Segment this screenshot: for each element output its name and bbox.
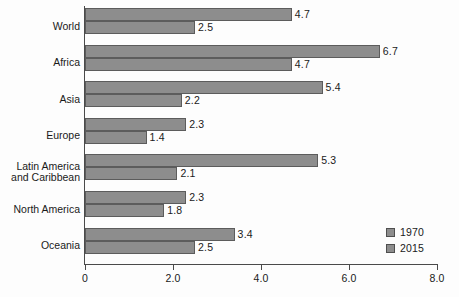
- bar-1970[interactable]: [85, 191, 186, 204]
- bar-row: 3.4: [85, 228, 437, 241]
- bar-value-label: 6.7: [380, 45, 398, 58]
- bar-1970[interactable]: [85, 45, 380, 58]
- bar-row: 2.3: [85, 191, 437, 204]
- bar-2015[interactable]: [85, 167, 177, 180]
- category-label: Oceania: [0, 240, 80, 252]
- bar-row: 4.7: [85, 58, 437, 71]
- category-label: Asia: [0, 94, 80, 106]
- bar-value-label: 3.4: [235, 228, 253, 241]
- bar-chart: 02.04.06.08.0 World4.72.5Africa6.74.7Asi…: [0, 0, 459, 297]
- x-axis-tick-mark: [173, 265, 174, 270]
- bar-value-label: 5.3: [318, 154, 336, 167]
- bar-row: 2.3: [85, 118, 437, 131]
- bar-2015[interactable]: [85, 204, 164, 217]
- bar-1970[interactable]: [85, 154, 318, 167]
- bar-value-label: 2.3: [186, 191, 204, 204]
- category-label: World: [0, 21, 80, 33]
- bar-value-label: 2.1: [177, 167, 195, 180]
- bar-row: 6.7: [85, 45, 437, 58]
- bar-2015[interactable]: [85, 131, 147, 144]
- bar-2015[interactable]: [85, 58, 292, 71]
- bar-row: 1.8: [85, 204, 437, 217]
- bar-row: 5.4: [85, 81, 437, 94]
- bar-row: 2.1: [85, 167, 437, 180]
- category-label: Latin America and Caribbean: [0, 161, 80, 184]
- bar-1970[interactable]: [85, 118, 186, 131]
- x-axis-tick-label: 2.0: [165, 272, 180, 284]
- x-axis-tick-label: 0: [82, 272, 88, 284]
- bar-row: 2.5: [85, 21, 437, 34]
- bar-value-label: 2.3: [186, 118, 204, 131]
- legend-swatch-icon: [386, 228, 395, 237]
- bar-value-label: 2.5: [195, 21, 213, 34]
- x-axis-tick-label: 4.0: [253, 272, 268, 284]
- bar-row: 2.5: [85, 241, 437, 254]
- bar-row: 2.2: [85, 94, 437, 107]
- x-axis-tick-mark: [437, 265, 438, 270]
- bar-2015[interactable]: [85, 94, 182, 107]
- bar-value-label: 4.7: [292, 58, 310, 71]
- legend-item-2015[interactable]: 2015: [386, 240, 424, 256]
- bar-2015[interactable]: [85, 241, 195, 254]
- bar-value-label: 2.2: [182, 94, 200, 107]
- x-axis-tick-label: 8.0: [429, 272, 444, 284]
- x-axis-tick-mark: [261, 265, 262, 270]
- legend-label: 1970: [400, 226, 424, 238]
- legend-item-1970[interactable]: 1970: [386, 224, 424, 240]
- category-label: Europe: [0, 130, 80, 142]
- bar-row: 1.4: [85, 131, 437, 144]
- bar-value-label: 1.8: [164, 204, 182, 217]
- x-axis-tick-label: 6.0: [341, 272, 356, 284]
- legend-swatch-icon: [386, 244, 395, 253]
- legend-label: 2015: [400, 242, 424, 254]
- bar-value-label: 4.7: [292, 8, 310, 21]
- category-label: Africa: [0, 57, 80, 69]
- category-label: North America: [0, 204, 80, 216]
- x-axis-tick-mark: [349, 265, 350, 270]
- chart-legend: 1970 2015: [386, 224, 424, 256]
- bar-1970[interactable]: [85, 228, 235, 241]
- x-axis-tick-mark: [85, 265, 86, 270]
- bar-row: 4.7: [85, 8, 437, 21]
- bar-value-label: 1.4: [147, 131, 165, 144]
- bar-2015[interactable]: [85, 21, 195, 34]
- bar-value-label: 5.4: [323, 81, 341, 94]
- bar-1970[interactable]: [85, 8, 292, 21]
- bar-value-label: 2.5: [195, 241, 213, 254]
- bar-row: 5.3: [85, 154, 437, 167]
- bar-1970[interactable]: [85, 81, 323, 94]
